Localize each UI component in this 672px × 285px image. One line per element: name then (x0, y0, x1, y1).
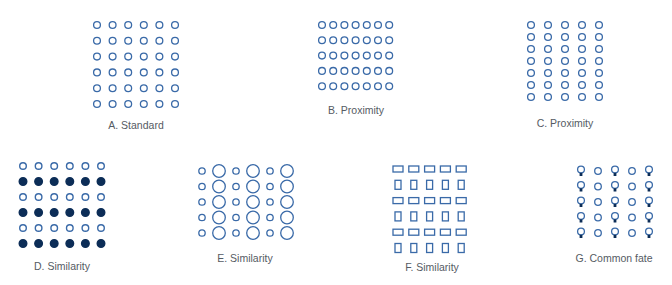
hollow-dot (51, 163, 58, 170)
filled-dot (97, 240, 105, 248)
vertical-rect (411, 180, 417, 189)
hollow-dot (386, 22, 393, 29)
filled-dot (19, 240, 27, 248)
hollow-dot (596, 82, 603, 89)
panel-d-label: D. Similarity (34, 260, 90, 272)
hollow-dot (629, 168, 636, 175)
hollow-dot (172, 69, 179, 76)
bulb-dot (646, 197, 653, 207)
hollow-dot (109, 53, 116, 60)
panel-e-label: E. Similarity (217, 252, 272, 264)
hollow-dot (156, 69, 163, 76)
bulb-tail (648, 204, 651, 207)
large-circle (281, 227, 294, 240)
small-circle (267, 230, 273, 236)
bulb-tail (580, 173, 583, 176)
hollow-dot (629, 230, 636, 237)
hollow-dot (109, 22, 116, 29)
bulb-tail (648, 219, 651, 222)
panel-g-label: G. Common fate (575, 252, 652, 264)
horizontal-rect (456, 229, 466, 235)
hollow-dot (595, 214, 602, 221)
hollow-dot (156, 22, 163, 29)
hollow-dot (596, 94, 603, 101)
small-circle (233, 199, 239, 205)
hollow-dot (341, 37, 348, 44)
hollow-dot (35, 163, 42, 170)
filled-dot (82, 209, 90, 217)
bulb-tail (648, 173, 651, 176)
vertical-rect (395, 180, 401, 189)
filled-dot (66, 178, 74, 186)
hollow-dot (528, 34, 535, 41)
hollow-dot (629, 183, 636, 190)
hollow-dot (562, 22, 569, 29)
vertical-rect (427, 244, 433, 253)
bulb-tail (614, 173, 617, 176)
filled-dot (19, 178, 27, 186)
hollow-dot (330, 83, 337, 90)
hollow-dot (375, 52, 382, 59)
hollow-dot (51, 194, 58, 201)
hollow-dot (341, 22, 348, 29)
large-circle (247, 196, 260, 209)
vertical-rect (411, 244, 417, 253)
large-circle (213, 227, 226, 240)
vertical-rect (442, 180, 448, 189)
hollow-dot (35, 194, 42, 201)
hollow-dot (341, 52, 348, 59)
hollow-dot (94, 101, 101, 108)
hollow-dot (82, 194, 89, 201)
hollow-dot (94, 85, 101, 92)
bulb-tail (614, 235, 617, 238)
filled-dot (19, 209, 27, 217)
hollow-dot (595, 230, 602, 237)
hollow-dot (352, 22, 359, 29)
panel-a-label: A. Standard (108, 119, 163, 131)
hollow-dot (562, 34, 569, 41)
horizontal-rect (456, 198, 466, 204)
hollow-dot (386, 52, 393, 59)
hollow-dot (140, 101, 147, 108)
hollow-dot (20, 163, 27, 170)
bulb-tail (580, 219, 583, 222)
hollow-dot (579, 58, 586, 65)
hollow-dot (67, 194, 74, 201)
hollow-dot (579, 70, 586, 77)
small-circle (267, 183, 273, 189)
bulb-head (646, 197, 653, 204)
hollow-dot (579, 82, 586, 89)
hollow-dot (528, 22, 535, 29)
hollow-dot (595, 183, 602, 190)
hollow-dot (172, 85, 179, 92)
hollow-dot (363, 83, 370, 90)
bulb-dot (646, 228, 653, 238)
horizontal-rect (409, 198, 419, 204)
hollow-dot (330, 68, 337, 75)
hollow-dot (386, 83, 393, 90)
hollow-dot (545, 46, 552, 53)
panel-a (94, 22, 179, 108)
filled-dot (82, 240, 90, 248)
bulb-head (578, 182, 585, 189)
vertical-rect (458, 180, 464, 189)
hollow-dot (562, 46, 569, 53)
bulb-head (646, 228, 653, 235)
small-circle (267, 199, 273, 205)
hollow-dot (140, 22, 147, 29)
filled-dot (35, 240, 43, 248)
bulb-dot (578, 182, 585, 192)
vertical-rect (458, 212, 464, 221)
horizontal-rect (393, 198, 403, 204)
hollow-dot (319, 83, 326, 90)
hollow-dot (172, 37, 179, 44)
hollow-dot (545, 94, 552, 101)
hollow-dot (140, 37, 147, 44)
hollow-dot (375, 83, 382, 90)
large-circle (213, 165, 226, 178)
hollow-dot (545, 34, 552, 41)
hollow-dot (98, 225, 105, 232)
hollow-dot (528, 82, 535, 89)
small-circle (233, 214, 239, 220)
small-circle (233, 183, 239, 189)
